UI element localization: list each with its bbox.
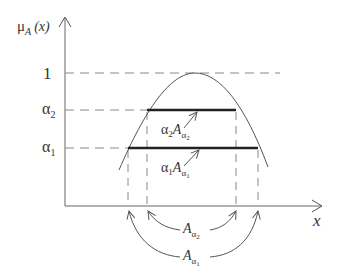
a1-scaled-label: α1Aα1 [161, 160, 190, 180]
a2-cut-label: Aα2 [182, 221, 200, 241]
a1-left-curve [129, 211, 180, 257]
a1-scaled-pointer [184, 150, 199, 166]
alpha-cut-diagram: μA(x) 1 α2 α1 x α2Aα2 α1Aα1 Aα2 Aα1 [0, 0, 337, 273]
a2-scaled-label: α2Aα2 [161, 122, 190, 142]
a2-right-curve [210, 211, 236, 230]
a1-right-curve [210, 211, 258, 257]
a1-cut-label: Aα1 [182, 248, 200, 268]
projection-dashes [128, 112, 258, 206]
level-alpha1-label: α1 [42, 138, 55, 158]
a2-scaled-pointer [184, 112, 197, 128]
level-alpha2-label: α2 [42, 100, 55, 120]
y-axis [59, 17, 71, 206]
x-axis-label: x [312, 211, 321, 230]
level-one-label: 1 [43, 64, 52, 83]
a2-left-curve [148, 211, 180, 230]
y-axis-label: μA(x) [17, 18, 50, 37]
x-axis [65, 200, 322, 212]
